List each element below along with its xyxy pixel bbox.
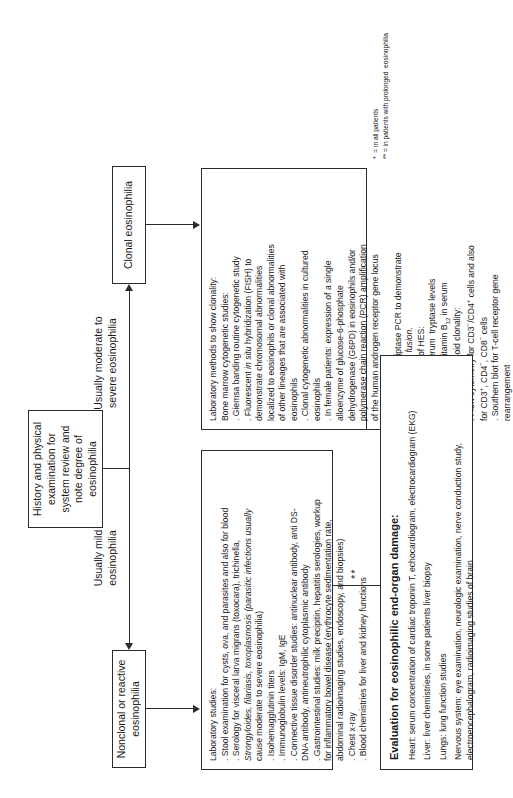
- reactive-panel-item: . Chest x-ray: [347, 459, 359, 761]
- edge-reactive-to-labs-line: [146, 708, 193, 709]
- evaluation-panel-line-heart: Heart: serum concentration of cardiac tr…: [407, 365, 419, 760]
- reactive-panel-item: abdominal radioimaging studies, endoscop…: [335, 459, 347, 761]
- evaluation-panel-line-lungs: Lungs: lung function studies: [438, 365, 450, 760]
- evaluation-panel-title: Evaluation for eosinophilic end-organ da…: [388, 365, 402, 760]
- edge-clonal-to-labs-line: [146, 224, 193, 225]
- panel-evaluation-end-organ-damage: Evaluation for eosinophilic end-organ da…: [380, 355, 473, 770]
- node-clonal-eosinophilia[interactable]: Clonal eosinophilia: [112, 166, 146, 284]
- reactive-panel-item: . Gastrointestinal studies: milk precipi…: [312, 459, 324, 761]
- evaluation-panel-line-nervous-system: Nervous system: eye examination, neurolo…: [453, 365, 476, 760]
- reactive-panel-item: . Isohemagglutinin titers: [266, 459, 278, 761]
- clonal-panel-heading: Laboratory methods to show clonality:: [208, 177, 220, 421]
- clonal-panel-item: . In female patients: expression of a si…: [323, 177, 335, 421]
- figure-footnotes: * = in all patients ** = in patients wit…: [371, 9, 390, 159]
- edge-start-to-clonal-arrowhead: [125, 284, 133, 291]
- clonal-panel-subheading: Bone marrow cytogenetic studies:: [220, 177, 232, 421]
- cd4-minus-superscript: −: [477, 362, 484, 366]
- clonal-panel-item: eosinophils: [289, 177, 301, 421]
- panel-clonal-laboratory-methods: Laboratory methods to show clonality: Bo…: [201, 168, 367, 430]
- reactive-panel-item: cause moderate to severe eosinophilia): [254, 459, 266, 761]
- cd3-minus-superscript: −: [464, 323, 471, 327]
- edge-start-to-reactive-arrowhead: [125, 643, 133, 650]
- b12-subscript: 12: [444, 318, 451, 325]
- cd3-plus-superscript: +: [477, 388, 484, 392]
- edge-clonal-to-labs-arrowhead: [193, 221, 200, 229]
- edge-label-usually-moderate-severe: Usually moderate to severe eosinophilia: [92, 288, 120, 438]
- reactive-panel-item: . Stool examination for cysts, ova, and …: [220, 459, 232, 761]
- clonal-panel-item: . Giemsa banding routine cytogenetic stu…: [231, 177, 243, 421]
- in-situ-italic: in situ: [243, 346, 253, 368]
- clonal-panel-item: . Fluorescent in situ hybridization (FIS…: [243, 177, 255, 421]
- clonal-panel-third-item: for CD3+, CD4−, CD8− cells: [477, 177, 490, 421]
- node-history-label: History and physical examination for sys…: [31, 422, 99, 516]
- edge-label-usually-mild-eosinophilia: Usually mild eosinophilia: [92, 493, 120, 623]
- clonal-panel-third-item: . Southern blot for T-cell receptor gene: [490, 177, 502, 421]
- node-nonclonal-reactive-eosinophilia[interactable]: Nonclonal or reactive eosinophilia: [112, 650, 146, 768]
- reactive-panel-item: for inflammatory bowel disease (erythroc…: [323, 459, 335, 761]
- reactive-panel-item: Strongyloides, filariasis, toxoplasmosis…: [243, 459, 255, 761]
- clonal-panel-item: demonstrate chromosomal abnormalities: [254, 177, 266, 421]
- node-reactive-label: Nonclonal or reactive eosinophilia: [115, 658, 142, 760]
- cd8-minus-superscript: −: [477, 337, 484, 341]
- evaluation-panel-line-liver: Liver: liver chemistries, in some patien…: [422, 365, 434, 760]
- double-star-marker: **: [350, 568, 361, 579]
- clonal-panel-item: eosinophils: [312, 177, 324, 421]
- clonal-panel-item: of other lineages that are associated wi…: [277, 177, 289, 421]
- reactive-panel-heading: Laboratory studies:: [208, 459, 220, 761]
- node-clonal-label: Clonal eosinophilia: [122, 181, 136, 269]
- clonal-panel-item: dehydrogenase (G6PD) in eosinophils and/…: [347, 177, 359, 421]
- reactive-panel-item: . Serology for visceral larva migrans (t…: [231, 459, 243, 761]
- clonal-panel-item: localized to eosinophils or clonal abnor…: [266, 177, 278, 421]
- panel-reactive-laboratory-studies: Laboratory studies: . Stool examination …: [201, 450, 333, 770]
- reactive-panel-item: . Immunoglobulin levels: IgM, IgE: [277, 459, 289, 761]
- edge-start-to-clonal-horizontal: [129, 291, 130, 469]
- reactive-panel-item: DNA antibody, antineutrophilic cytoplasm…: [300, 459, 312, 761]
- footnote-single-star: * = in all patients: [371, 9, 381, 159]
- reactive-panel-item: . Blood chemistries for liver and kidney…: [358, 459, 370, 761]
- footnote-double-star: ** = in patients with prolonged eosinoph…: [381, 9, 391, 159]
- clonal-panel-item: . Clonal cytogenetic abnormalities in cu…: [300, 177, 312, 421]
- edge-reactive-labs-to-evaluation-line: [333, 585, 383, 586]
- clonal-panel-item: polymerase chain reaction (PCR) amplific…: [358, 177, 370, 421]
- reactive-panel-item: . Connective tissue disorder studies: an…: [289, 459, 301, 761]
- clonal-panel-third-item: rearrangement: [502, 177, 513, 421]
- clonal-panel-item: alloenzyme of glucose-6-phosphate: [335, 177, 347, 421]
- reactive-panel-item-italic: Strongyloides, filariasis, toxoplasmosis…: [243, 509, 253, 761]
- edge-reactive-to-labs-arrowhead: [193, 705, 200, 713]
- cd4-plus-superscript: +: [464, 300, 471, 304]
- edge-start-to-clonal-vertical: [103, 468, 129, 469]
- edge-start-to-reactive-horizontal: [129, 468, 130, 643]
